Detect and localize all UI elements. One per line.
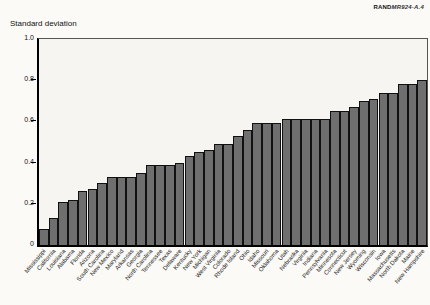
bar-north-dakota bbox=[398, 84, 408, 245]
y-tick-label-0: 0 bbox=[8, 240, 34, 247]
x-label-north-carolina: North Carolina bbox=[78, 248, 154, 305]
x-label-new-hampshire: New Hampshire bbox=[350, 248, 426, 305]
x-label-delaware: Delaware bbox=[107, 248, 183, 305]
bar-iowa bbox=[379, 93, 389, 245]
y-tick-mark bbox=[31, 120, 36, 121]
bar-michigan bbox=[204, 150, 214, 245]
bar-west-virginia bbox=[214, 144, 224, 245]
bar-massachusetts bbox=[388, 93, 398, 245]
bar-north-carolina bbox=[146, 165, 156, 245]
x-label-iowa: Iowa bbox=[311, 248, 387, 305]
bar-missouri bbox=[262, 123, 272, 245]
x-label-tennessee: Tennessee bbox=[88, 248, 164, 305]
x-label-mississippi: Mississippi bbox=[0, 248, 48, 305]
bar-maryland bbox=[117, 177, 127, 245]
x-label-connecticut: Connecticut bbox=[272, 248, 348, 305]
x-label-nebraska: Nebraska bbox=[224, 248, 300, 305]
x-label-alabama: Alabama bbox=[1, 248, 77, 305]
bar-maine bbox=[408, 84, 418, 245]
x-label-colorado: Colorado bbox=[156, 248, 232, 305]
x-label-maine: Maine bbox=[340, 248, 416, 305]
x-label-georgia: Georgia bbox=[69, 248, 145, 305]
bar-virginia bbox=[301, 119, 311, 245]
bar-minnesota bbox=[330, 111, 340, 245]
bar-alabama bbox=[68, 200, 78, 245]
x-label-pennsylvania: Pennsylvania bbox=[253, 248, 329, 305]
x-label-wisconsin: Wisconsin bbox=[301, 248, 377, 305]
bar-indiana bbox=[311, 119, 321, 245]
x-label-new-jersey: New Jersey bbox=[282, 248, 358, 305]
bar-wisconsin bbox=[369, 99, 379, 245]
bar-texas bbox=[165, 165, 175, 245]
y-axis-title: Standard deviation bbox=[10, 19, 77, 28]
x-label-south-carolina: South Carolina bbox=[30, 248, 106, 305]
source-citation: RANDMR924-A.4 bbox=[373, 4, 424, 10]
bar-arizona bbox=[88, 189, 98, 245]
x-label-west-virginia: West Virginia bbox=[146, 248, 222, 305]
x-label-maryland: Maryland bbox=[49, 248, 125, 305]
bar-utah bbox=[282, 119, 292, 245]
bar-new-mexico bbox=[107, 177, 117, 245]
plot-area bbox=[37, 38, 428, 247]
y-tick-mark bbox=[31, 203, 36, 204]
bar-connecticut bbox=[340, 111, 350, 245]
bar-new-jersey bbox=[349, 107, 359, 245]
bar-colorado bbox=[223, 144, 233, 245]
report-reference: MR924-A.4 bbox=[392, 4, 424, 10]
x-label-oklahoma: Oklahoma bbox=[204, 248, 280, 305]
bar-kentucky bbox=[185, 156, 195, 245]
x-label-minnesota: Minnesota bbox=[263, 248, 339, 305]
bar-new-hampshire bbox=[417, 80, 427, 245]
y-tick-label-1.0: 1.0 bbox=[8, 34, 34, 41]
x-label-texas: Texas bbox=[98, 248, 174, 305]
bar-idaho bbox=[252, 123, 262, 245]
x-label-rhode-island: Rhode Island bbox=[166, 248, 242, 305]
bar-florida bbox=[78, 191, 88, 245]
bar-georgia bbox=[136, 173, 146, 245]
x-label-indiana: Indiana bbox=[243, 248, 319, 305]
x-label-idaho: Idaho bbox=[185, 248, 261, 305]
bar-delaware bbox=[175, 163, 185, 245]
x-label-california: California bbox=[0, 248, 57, 305]
x-label-wyoming: Wyoming bbox=[292, 248, 368, 305]
bar-ohio bbox=[243, 130, 253, 245]
x-label-north-dakota: North Dakota bbox=[331, 248, 407, 305]
bar-nebraska bbox=[291, 119, 301, 245]
figure: RANDMR924-A.4 Standard deviation 00.20.4… bbox=[0, 0, 430, 305]
y-tick-mark bbox=[31, 79, 36, 80]
bar-oklahoma bbox=[272, 123, 282, 245]
bar-new-york bbox=[194, 152, 204, 245]
x-label-arkansas: Arkansas bbox=[59, 248, 135, 305]
x-label-michigan: Michigan bbox=[137, 248, 213, 305]
x-label-virginia: Virginia bbox=[234, 248, 310, 305]
x-label-new-mexico: New Mexico bbox=[40, 248, 116, 305]
x-label-massachusetts: Massachusetts bbox=[321, 248, 397, 305]
bar-wyoming bbox=[359, 101, 369, 245]
x-label-missouri: Missouri bbox=[195, 248, 271, 305]
bar-louisiana bbox=[58, 202, 68, 245]
x-label-utah: Utah bbox=[214, 248, 290, 305]
bars-container bbox=[39, 39, 427, 245]
x-label-arizona: Arizona bbox=[20, 248, 96, 305]
x-label-louisiana: Louisiana bbox=[0, 248, 67, 305]
bar-mississippi bbox=[39, 229, 49, 245]
bar-california bbox=[49, 218, 59, 245]
bar-rhode-island bbox=[233, 136, 243, 245]
y-tick-mark bbox=[31, 162, 36, 163]
bar-arkansas bbox=[126, 177, 136, 245]
x-label-kentucky: Kentucky bbox=[117, 248, 193, 305]
x-label-new-york: New York bbox=[127, 248, 203, 305]
rand-logo-text: RAND bbox=[373, 4, 391, 10]
bar-tennessee bbox=[155, 165, 165, 245]
x-label-florida: Florida bbox=[10, 248, 86, 305]
bar-pennsylvania bbox=[320, 119, 330, 245]
x-label-ohio: Ohio bbox=[175, 248, 251, 305]
bar-south-carolina bbox=[97, 183, 107, 245]
